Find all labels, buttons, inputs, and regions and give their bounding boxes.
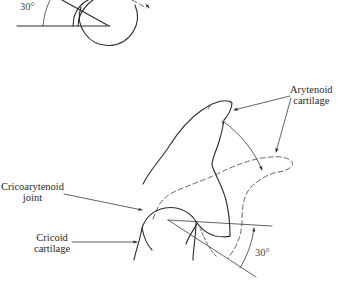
angle-arc-bottom xyxy=(240,228,254,268)
cricoarytenoid-joint-label: Cricoarytenoid joint xyxy=(1,181,64,203)
cricoid-upper-curve xyxy=(134,208,230,261)
reference-rotated xyxy=(168,220,256,277)
center-point xyxy=(108,25,110,27)
rotation-arrow-dashed xyxy=(132,0,146,8)
cricoarytenoid-label-line2: joint xyxy=(1,192,64,203)
cricoarytenoid-label-line1: Cricoarytenoid xyxy=(1,181,64,192)
top-angle-label: 30° xyxy=(20,1,35,12)
arytenoid-label: Arytenoid cartilage xyxy=(290,84,333,106)
cricoarytenoid-leader xyxy=(64,194,142,210)
cricoid-inner-curve xyxy=(142,228,152,250)
arytenoid-label-line2: cartilage xyxy=(290,95,333,106)
rotated-line xyxy=(62,0,109,26)
arytenoid-label-line1: Arytenoid xyxy=(290,84,333,95)
cricoid-cartilage-label: Cricoid cartilage xyxy=(34,232,70,254)
rotation-arrow-head xyxy=(146,4,149,8)
cricoid-label-line2: cartilage xyxy=(34,243,70,254)
arytenoid-solid-outline xyxy=(143,101,232,236)
arytenoid-leader-1 xyxy=(234,96,290,110)
arytenoid-notch-2 xyxy=(222,121,223,124)
rotation-arrow xyxy=(224,122,262,170)
arytenoid-leader-2 xyxy=(276,98,291,152)
angle-arc xyxy=(43,0,50,26)
bottom-angle-label: 30° xyxy=(255,247,270,258)
top-rotation-figure xyxy=(17,0,149,46)
cricoid-label-line1: Cricoid xyxy=(34,232,70,243)
reference-horizontal xyxy=(168,220,272,226)
